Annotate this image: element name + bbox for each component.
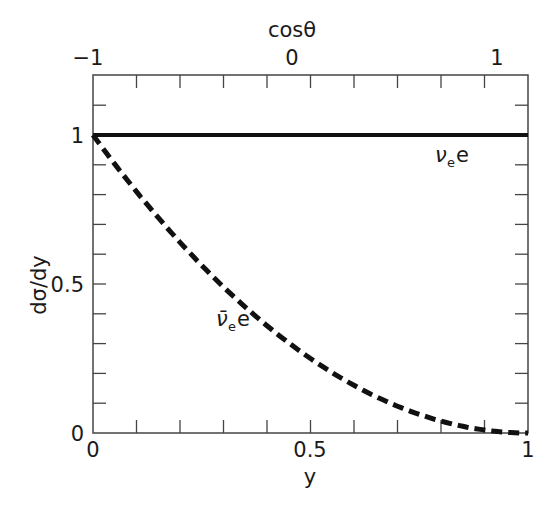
y-axis-label: dσ/dy <box>27 255 51 314</box>
chart: 0 0.5 1 y 0 0.5 1 dσ/dy −1 0 1 cosθ ν e … <box>0 0 556 510</box>
svg-text:ν̄: ν̄ <box>216 307 228 331</box>
plot-frame <box>93 75 528 433</box>
x-axis-label: y <box>304 465 316 489</box>
nu-e-label: ν e e <box>435 143 469 170</box>
svg-text:e: e <box>228 319 236 334</box>
top-tick-m1: −1 <box>73 46 104 70</box>
svg-text:e: e <box>456 143 469 167</box>
top-axis-label: cosθ <box>268 18 316 42</box>
top-tick-1: 1 <box>490 46 503 70</box>
y-tick-0: 0 <box>71 422 84 446</box>
x-tick-1: 1 <box>521 438 534 462</box>
antinu-e-label: ν̄ e e <box>216 307 250 334</box>
y-tick-05: 0.5 <box>51 273 84 297</box>
svg-text:e: e <box>447 155 455 170</box>
y-tick-1: 1 <box>71 124 84 148</box>
antinu-e-curve <box>93 135 528 433</box>
svg-text:e: e <box>237 307 250 331</box>
x-tick-0: 0 <box>86 438 99 462</box>
top-tick-0: 0 <box>285 46 298 70</box>
x-tick-05: 0.5 <box>293 438 326 462</box>
svg-text:ν: ν <box>435 143 447 167</box>
tick-marks <box>93 75 528 433</box>
